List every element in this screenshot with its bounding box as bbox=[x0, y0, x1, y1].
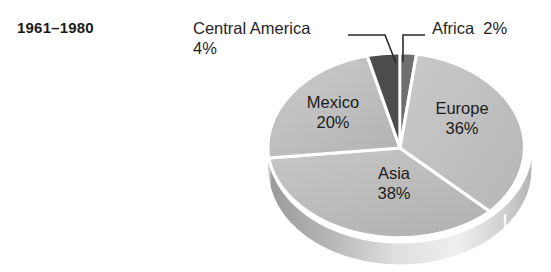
slice-label-mexico: Mexico 20% bbox=[283, 92, 383, 133]
callout-africa-percent: 2% bbox=[483, 19, 507, 37]
slice-label-europe: Europe 36% bbox=[412, 98, 512, 139]
slice-label-asia-name: Asia bbox=[378, 164, 410, 182]
slice-label-europe-percent: 36% bbox=[412, 118, 512, 138]
slice-label-asia-percent: 38% bbox=[344, 183, 444, 203]
slice-label-mexico-percent: 20% bbox=[283, 112, 383, 132]
pie-slices bbox=[268, 53, 525, 238]
slice-callout-africa: Africa 2% bbox=[432, 18, 507, 38]
callout-central-america-percent: 4% bbox=[193, 39, 217, 57]
pie-chart-figure: 1961–1980 bbox=[0, 0, 551, 272]
slice-label-mexico-name: Mexico bbox=[307, 93, 359, 111]
callout-africa-name: Africa bbox=[432, 19, 474, 37]
slice-label-europe-name: Europe bbox=[435, 99, 488, 117]
slice-label-asia: Asia 38% bbox=[344, 163, 444, 204]
callout-central-america-name: Central America bbox=[193, 19, 310, 37]
slice-callout-central-america: Central America 4% bbox=[193, 18, 310, 58]
